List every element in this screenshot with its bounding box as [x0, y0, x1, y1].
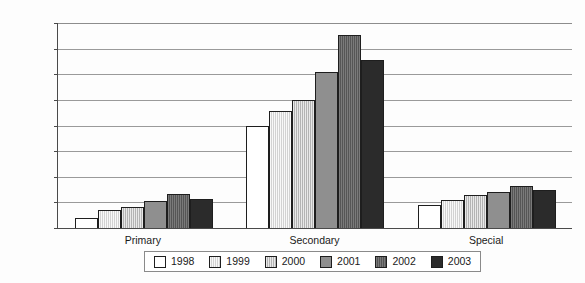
bar-primary-2002 [167, 194, 190, 228]
chart-legend: 199819992000200120022003 [144, 251, 481, 272]
legend-label: 1998 [171, 256, 194, 267]
bar-special-2000 [464, 195, 487, 228]
legend-swatch-icon-2001 [320, 256, 332, 268]
bar-special-2001 [487, 192, 510, 228]
bar-secondary-1999 [269, 111, 292, 228]
legend-item-2000[interactable]: 2000 [265, 256, 305, 268]
legend-item-1998[interactable]: 1998 [154, 256, 194, 268]
bar-secondary-1998 [246, 126, 269, 229]
bar-primary-2001 [144, 201, 167, 228]
bar-group-special [401, 23, 573, 228]
bar-secondary-2003 [361, 60, 384, 228]
plot-area [57, 23, 572, 228]
bar-group-secondary [230, 23, 402, 228]
category-label-primary: Primary [125, 234, 161, 246]
bar-primary-2003 [190, 199, 213, 228]
bar-series-layer [58, 23, 572, 228]
bar-special-2003 [533, 190, 556, 228]
legend-swatch-icon-1998 [154, 256, 166, 268]
bar-special-2002 [510, 186, 533, 228]
bar-primary-1999 [98, 210, 121, 228]
legend-item-2003[interactable]: 2003 [431, 256, 471, 268]
category-label-special: Special [469, 234, 503, 246]
y-axis-tick [54, 228, 58, 229]
legend-swatch-icon-2003 [431, 256, 443, 268]
bar-special-1998 [418, 205, 441, 228]
bar-primary-2000 [121, 207, 144, 228]
bar-secondary-2001 [315, 72, 338, 228]
bar-secondary-2002 [338, 35, 361, 228]
bar-secondary-2000 [292, 100, 315, 228]
legend-label: 2001 [337, 256, 360, 267]
legend-swatch-icon-1999 [209, 256, 221, 268]
category-label-secondary: Secondary [289, 234, 339, 246]
legend-label: 2003 [448, 256, 471, 267]
legend-swatch-icon-2000 [265, 256, 277, 268]
legend-label: 2002 [392, 256, 415, 267]
legend-item-2002[interactable]: 2002 [375, 256, 415, 268]
bar-primary-1998 [75, 218, 98, 228]
bar-special-1999 [441, 200, 464, 228]
legend-label: 2000 [282, 256, 305, 267]
bar-chart: 010,00020,00030,00040,00050,00060,00070,… [0, 0, 585, 283]
gridline-0 [58, 228, 572, 229]
bar-group-primary [58, 23, 230, 228]
legend-label: 1999 [226, 256, 249, 267]
legend-swatch-icon-2002 [375, 256, 387, 268]
legend-item-2001[interactable]: 2001 [320, 256, 360, 268]
legend-item-1999[interactable]: 1999 [209, 256, 249, 268]
